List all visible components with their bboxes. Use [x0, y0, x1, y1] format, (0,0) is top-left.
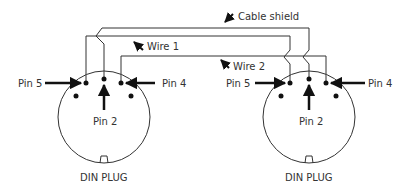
plug-key-notch [100, 156, 108, 163]
pin-2-dot [307, 77, 312, 82]
pin-1-dot [279, 94, 284, 99]
wire-1-label: Wire 1 [147, 41, 179, 52]
wire-2 [121, 56, 326, 83]
right-pin4-label: Pin 4 [368, 78, 392, 89]
plug-key-notch [305, 156, 313, 163]
din-cable-wiring-diagram: Cable shield Wire 1 Wire 2 Pin 5 Pin 4 P… [0, 0, 407, 193]
cable-shield-pointer-icon [225, 14, 233, 22]
cable-shield-label: Cable shield [238, 11, 299, 22]
left-pin5-label: Pin 5 [18, 78, 42, 89]
pin-3-dot [334, 94, 339, 99]
left-plug-title: DIN PLUG [80, 172, 127, 183]
wire-1 [86, 36, 290, 83]
pin-4-dot [324, 81, 329, 86]
pin-2-dot [102, 77, 107, 82]
pin-5-dot [84, 81, 89, 86]
right-pin5-label: Pin 5 [226, 78, 250, 89]
left-pin2-label: Pin 2 [93, 116, 117, 127]
right-plug-title: DIN PLUG [285, 172, 332, 183]
left-pin4-label: Pin 4 [162, 78, 186, 89]
pin-4-dot [119, 81, 124, 86]
wire-1-pointer-icon [134, 42, 143, 50]
wire-2-pointer-icon [221, 60, 229, 68]
pin-3-dot [129, 94, 134, 99]
right-pin2-label: Pin 2 [299, 116, 323, 127]
pin-5-dot [288, 81, 293, 86]
pin-1-dot [74, 94, 79, 99]
wire-2-label: Wire 2 [233, 61, 265, 72]
